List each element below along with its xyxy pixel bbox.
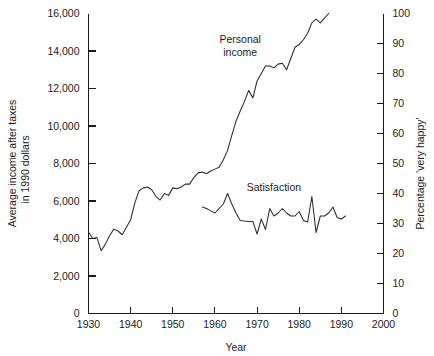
y2-axis-title: Percentage 'very happy' — [414, 118, 426, 230]
series-paths — [89, 14, 346, 251]
bottom-tick-label: 1950 — [161, 318, 185, 330]
right-tick-label: 40 — [393, 187, 405, 199]
left-tick-label: 14,000 — [47, 45, 79, 57]
right-tick-label: 10 — [393, 277, 405, 289]
right-tick-label: 70 — [393, 97, 405, 109]
personal-income-label-line1: Personal — [219, 33, 260, 45]
y-axis-title-line1: Average income after taxes — [6, 100, 18, 228]
bottom-tick-label: 1930 — [77, 318, 101, 330]
left-tick-label: 2,000 — [53, 270, 79, 282]
bottom-tick-label: 1960 — [203, 318, 227, 330]
personal-income-label-line2: income — [223, 46, 257, 58]
left-tick-label: 12,000 — [47, 82, 79, 94]
axis-titles: Year Average income after taxes in 1990 … — [6, 100, 426, 353]
x-axis-title: Year — [225, 341, 247, 353]
left-axis-ticks — [89, 51, 96, 276]
bottom-tick-label: 1990 — [330, 318, 354, 330]
right-tick-label: 80 — [393, 67, 405, 79]
left-axis-tick-labels: 02,0004,0006,0008,00010,00012,00014,0001… — [47, 7, 79, 319]
bottom-axis-ticks — [131, 307, 342, 314]
series-annotations: Personal income Satisfaction — [219, 33, 301, 193]
right-tick-label: 100 — [393, 7, 411, 19]
left-tick-label: 8,000 — [53, 157, 79, 169]
right-axis-ticks — [377, 44, 384, 284]
left-tick-label: 10,000 — [47, 120, 79, 132]
right-tick-label: 50 — [393, 157, 405, 169]
plot-axes — [89, 14, 384, 314]
income-satisfaction-line-chart: 02,0004,0006,0008,00010,00012,00014,0001… — [0, 0, 434, 356]
right-tick-label: 60 — [393, 127, 405, 139]
personal-income-line — [89, 14, 329, 251]
bottom-tick-label: 2000 — [372, 318, 396, 330]
left-tick-label: 4,000 — [53, 232, 79, 244]
satisfaction-label: Satisfaction — [247, 181, 301, 193]
bottom-tick-label: 1970 — [245, 318, 269, 330]
bottom-tick-label: 1980 — [288, 318, 312, 330]
y-axis-title-line2: in 1990 dollars — [19, 135, 31, 203]
right-axis-tick-labels: 0102030405060708090100 — [393, 7, 411, 319]
left-tick-label: 16,000 — [47, 7, 79, 19]
right-tick-label: 20 — [393, 247, 405, 259]
left-tick-label: 6,000 — [53, 195, 79, 207]
bottom-tick-label: 1940 — [119, 318, 143, 330]
right-tick-label: 30 — [393, 217, 405, 229]
bottom-axis-tick-labels: 19301940195019601970198019902000 — [77, 318, 396, 330]
right-tick-label: 90 — [393, 37, 405, 49]
satisfaction-line — [202, 194, 345, 235]
chart-container: 02,0004,0006,0008,00010,00012,00014,0001… — [0, 0, 434, 356]
